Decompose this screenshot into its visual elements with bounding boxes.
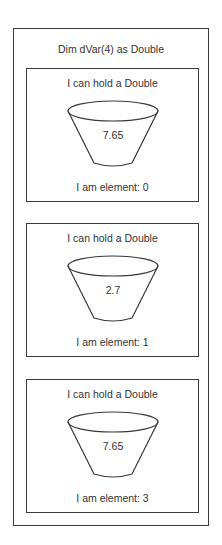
array-declaration: Dim dVar(4) as Double <box>14 43 208 55</box>
array-element-0: I can hold a Double 7.65 I am element: 0 <box>26 68 199 202</box>
bucket-icon: 7.65 <box>66 99 160 169</box>
element-title: I can hold a Double <box>27 232 198 244</box>
element-value: 7.65 <box>66 129 160 141</box>
array-container: Dim dVar(4) as Double I can hold a Doubl… <box>13 28 209 526</box>
bucket-icon: 2.7 <box>66 254 160 324</box>
array-element-1: I can hold a Double 2.7 I am element: 1 <box>26 223 199 357</box>
array-element-3: I can hold a Double 7.65 I am element: 3 <box>26 379 199 513</box>
bucket-icon: 7.65 <box>66 410 160 480</box>
element-label: I am element: 3 <box>27 492 198 504</box>
element-label: I am element: 0 <box>27 181 198 193</box>
element-value: 7.65 <box>66 440 160 452</box>
element-title: I can hold a Double <box>27 388 198 400</box>
element-label: I am element: 1 <box>27 336 198 348</box>
element-value: 2.7 <box>66 284 160 296</box>
element-title: I can hold a Double <box>27 77 198 89</box>
